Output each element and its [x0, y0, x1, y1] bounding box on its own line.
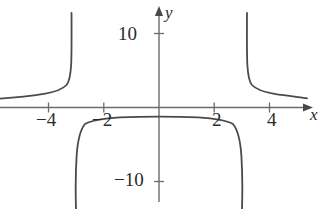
- x-tick-label-neg2: −2: [92, 110, 112, 129]
- y-tick-label-10: 10: [118, 24, 137, 43]
- function-graph-figure: −4 −2 2 4 10 −10 y x: [0, 0, 318, 209]
- x-tick-label-4: 4: [267, 110, 277, 129]
- y-axis-label: y: [165, 4, 173, 21]
- y-axis-arrowhead: [155, 6, 163, 16]
- curve-right-branch: [247, 13, 307, 98]
- plot-canvas: [0, 0, 318, 209]
- x-tick-label-2: 2: [212, 110, 222, 129]
- y-tick-label-neg10: −10: [114, 170, 144, 189]
- x-tick-label-neg4: −4: [36, 110, 56, 129]
- curve-left-branch: [0, 13, 72, 99]
- x-axis-label: x: [310, 106, 318, 123]
